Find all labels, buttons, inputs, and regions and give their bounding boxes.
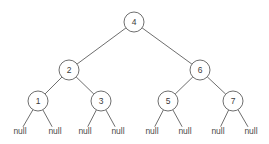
leaf-null-label: null (178, 126, 191, 136)
tree-edge (23, 110, 33, 127)
leaf-null-label: null (244, 126, 257, 136)
tree-edge (88, 110, 97, 127)
tree-edge (45, 77, 62, 94)
node-value-label: 1 (36, 96, 41, 106)
leaf-null-label: null (111, 126, 124, 136)
tree-edge (76, 77, 94, 94)
tree-edge (238, 110, 248, 127)
node-value-label: 7 (231, 96, 236, 106)
tree-edge (221, 110, 229, 127)
tree-edge (106, 110, 115, 127)
tree-edges (23, 28, 248, 127)
tree-edge (155, 110, 164, 127)
tree-node-3: 3 (91, 91, 111, 111)
tree-node-2: 2 (59, 60, 79, 80)
tree-node-5: 5 (158, 91, 178, 111)
tree-edge (142, 28, 192, 64)
tree-edge (43, 110, 52, 127)
tree-node-4: 4 (124, 12, 144, 32)
leaf-null-label: null (211, 126, 224, 136)
tree-canvas: 4261357 nullnullnullnullnullnullnullnull (0, 0, 269, 144)
tree-node-1: 1 (28, 91, 48, 111)
node-value-label: 4 (132, 17, 137, 27)
tree-edge (207, 77, 225, 94)
tree-nodes: 4261357 (28, 12, 243, 111)
leaf-null-label: null (78, 126, 91, 136)
leaf-null-label: null (13, 126, 26, 136)
tree-leaf-labels: nullnullnullnullnullnullnullnull (13, 126, 257, 136)
tree-edge (77, 28, 126, 64)
leaf-null-label: null (48, 126, 61, 136)
node-value-label: 5 (166, 96, 171, 106)
tree-node-6: 6 (190, 60, 210, 80)
node-value-label: 6 (198, 65, 203, 75)
node-value-label: 3 (99, 96, 104, 106)
tree-edge (175, 77, 193, 94)
node-value-label: 2 (67, 65, 72, 75)
leaf-null-label: null (145, 126, 158, 136)
tree-edge (173, 110, 182, 127)
binary-tree-diagram: 4261357 nullnullnullnullnullnullnullnull (0, 0, 269, 144)
tree-node-7: 7 (223, 91, 243, 111)
